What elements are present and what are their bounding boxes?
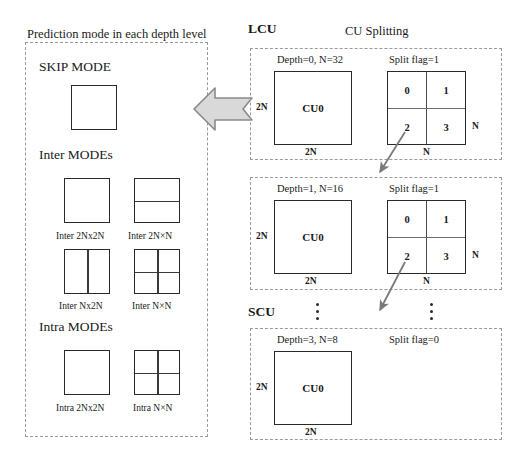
mode-square-inter-nx2n: [64, 249, 110, 294]
ellipsis-left: [316, 303, 319, 324]
split-flag-text-0: Split flag=1: [389, 55, 439, 66]
quadrant-0: 0: [388, 201, 426, 237]
ellipsis-right: [430, 303, 433, 324]
mode-square-intra-2nx2n: [64, 350, 110, 395]
mode-label-inter-2nx2n: Inter 2Nx2N: [56, 232, 104, 242]
split-flag-text-2: Split flag=0: [389, 335, 439, 346]
diagonal-arrow-1-to-2: [372, 258, 416, 320]
left-panel-caption: Prediction mode in each depth level: [27, 28, 206, 41]
diagonal-arrow-0-to-1: [372, 128, 416, 180]
dim-right-split-0: N: [472, 122, 479, 132]
cu-label-0: CU0: [275, 102, 351, 114]
mode-square-intra-nxn: [134, 350, 180, 395]
dim-bottom-split-0: N: [423, 148, 430, 158]
cu-square-1: CU0: [274, 200, 352, 274]
depth-text-1: Depth=1, N=16: [277, 184, 343, 195]
mode-label-inter-nxn: Inter N×N: [132, 302, 171, 312]
lcu-label: LCU: [248, 22, 277, 36]
mode-square-inter-2nx2n: [64, 178, 110, 223]
mode-label-intra-nxn: Intra N×N: [133, 404, 172, 414]
partition-divider-horizontal: [135, 373, 179, 375]
mode-label-inter-nx2n: Inter Nx2N: [59, 302, 103, 312]
big-left-arrow: [193, 83, 253, 135]
dim-bottom-1: 2N: [305, 277, 317, 287]
quadrant-0: 0: [388, 72, 426, 108]
dim-left-2: 2N: [256, 383, 268, 393]
dim-left-1: 2N: [256, 232, 268, 242]
quadrant-3: 3: [427, 109, 465, 145]
dim-bottom-split-1: N: [423, 277, 430, 287]
split-flag-text-1: Split flag=1: [389, 184, 439, 195]
cu-square-2: CU0: [274, 351, 352, 425]
mode-label-inter-2nxn: Inter 2N×N: [128, 232, 172, 242]
quadrant-1: 1: [427, 72, 465, 108]
mode-square-inter-2nxn: [134, 178, 180, 223]
mode-square-skip-2nx2n: [71, 85, 117, 130]
group-heading-intra: Intra MODEs: [39, 320, 113, 334]
depth-text-0: Depth=0, N=32: [277, 55, 343, 66]
mode-label-intra-2nx2n: Intra 2Nx2N: [56, 404, 104, 414]
group-heading-skip: SKIP MODE: [39, 60, 111, 74]
partition-divider-horizontal: [135, 201, 179, 203]
cu-square-0: CU0: [274, 71, 352, 145]
dim-left-0: 2N: [256, 103, 268, 113]
dim-bottom-2: 2N: [305, 428, 317, 438]
dim-right-split-1: N: [472, 251, 479, 261]
quadrant-1: 1: [427, 201, 465, 237]
group-heading-inter: Inter MODEs: [39, 148, 113, 162]
scu-label: SCU: [248, 305, 275, 319]
mode-square-inter-nxn: [134, 249, 180, 294]
depth-text-2: Depth=3, N=8: [277, 335, 338, 346]
dim-bottom-0: 2N: [305, 148, 317, 158]
quadrant-3: 3: [427, 238, 465, 274]
cu-label-2: CU0: [275, 382, 351, 394]
partition-divider-vertical: [87, 250, 89, 293]
cu-splitting-title: CU Splitting: [345, 25, 409, 38]
partition-divider-horizontal: [135, 272, 179, 274]
cu-label-1: CU0: [275, 231, 351, 243]
